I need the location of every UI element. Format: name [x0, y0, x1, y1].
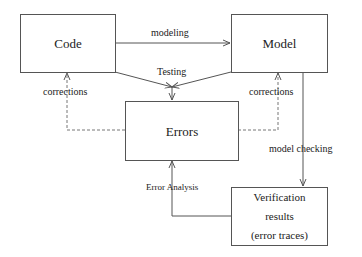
errors-node: Errors: [125, 101, 239, 161]
verification-line-1: Verification: [254, 188, 306, 207]
corrections-right-arrow: [238, 73, 278, 130]
model-node: Model: [231, 14, 328, 73]
corrections-left-arrow: [67, 73, 125, 130]
model-checking-label: model checking: [269, 143, 333, 154]
errors-label: Errors: [166, 122, 199, 141]
verification-line-3: (error traces): [251, 226, 308, 245]
verification-results-node: Verification results (error traces): [231, 187, 328, 246]
error-analysis-label: Error Analysis: [146, 182, 198, 192]
verification-line-2: results: [265, 207, 294, 226]
model-label: Model: [263, 34, 297, 53]
code-label: Code: [54, 34, 81, 53]
modeling-label: modeling: [151, 27, 189, 38]
code-node: Code: [20, 14, 116, 73]
corrections-right-label: corrections: [249, 86, 293, 97]
corrections-left-label: corrections: [43, 86, 87, 97]
testing-label: Testing: [157, 66, 186, 77]
